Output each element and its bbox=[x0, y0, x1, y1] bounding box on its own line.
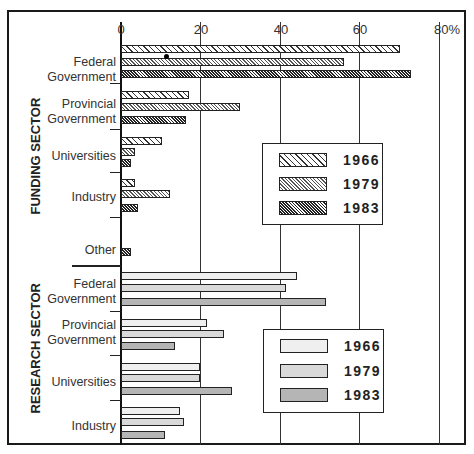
gridline-20 bbox=[200, 22, 201, 445]
bar-funding-universities-1983 bbox=[121, 159, 131, 167]
legend-swatch-1983 bbox=[280, 388, 328, 402]
legend-item-1979: 1979 bbox=[279, 176, 380, 192]
bar-funding-provincial-1966 bbox=[121, 91, 189, 99]
label-funding-provincial: Provincial Government bbox=[47, 97, 116, 127]
label-funding-industry: Industry bbox=[72, 190, 116, 205]
legend-swatch-1966 bbox=[279, 153, 327, 167]
tick-label-80: 80% bbox=[434, 22, 460, 37]
legend-swatch-1966 bbox=[280, 339, 328, 353]
legend-item-1966: 1966 bbox=[280, 338, 381, 354]
bar-funding-universities-1966 bbox=[121, 137, 162, 145]
bar-research-industry-1983 bbox=[121, 431, 165, 439]
bar-funding-industry-1966 bbox=[121, 179, 135, 187]
legend-swatch-1979 bbox=[280, 364, 328, 378]
legend-item-1983: 1983 bbox=[279, 200, 380, 216]
bar-funding-other-1983 bbox=[121, 248, 131, 256]
separator bbox=[110, 217, 121, 218]
gridline-80 bbox=[439, 22, 440, 445]
legend-item-1983: 1983 bbox=[280, 387, 381, 403]
separator bbox=[110, 172, 121, 173]
legend-item-1979: 1979 bbox=[280, 363, 381, 379]
label-funding-other: Other bbox=[85, 243, 116, 258]
separator bbox=[110, 129, 121, 130]
legend-swatch-1979 bbox=[279, 177, 327, 191]
bar-funding-federal-1966 bbox=[121, 45, 400, 53]
separator bbox=[110, 83, 121, 84]
bar-funding-provincial-1983 bbox=[121, 116, 186, 124]
legend-item-1966: 1966 bbox=[279, 152, 380, 168]
bar-research-universities-1983 bbox=[121, 387, 232, 395]
bar-research-provincial-1983 bbox=[121, 342, 175, 350]
label-research-federal: Federal Government bbox=[47, 277, 116, 307]
bar-research-universities-1979 bbox=[121, 374, 200, 382]
bar-research-industry-1979 bbox=[121, 418, 184, 426]
tick-label-40: 40 bbox=[274, 22, 288, 37]
label-research-universities: Universities bbox=[51, 375, 116, 390]
research-sector-label: RESEARCH SECTOR bbox=[28, 294, 43, 414]
label-research-industry: Industry bbox=[72, 419, 116, 434]
bar-research-federal-1979 bbox=[121, 284, 286, 292]
bar-funding-industry-1983 bbox=[121, 204, 138, 212]
label-research-provincial: Provincial Government bbox=[47, 318, 116, 348]
funding-sector-label: FUNDING SECTOR bbox=[28, 105, 43, 215]
bar-funding-industry-1979 bbox=[121, 190, 170, 198]
bar-funding-provincial-1979 bbox=[121, 103, 240, 111]
tick-label-60: 60 bbox=[353, 22, 367, 37]
bar-funding-federal-1983 bbox=[121, 70, 411, 78]
separator bbox=[110, 311, 121, 312]
label-funding-federal: Federal Government bbox=[47, 55, 116, 85]
label-funding-universities: Universities bbox=[51, 149, 116, 164]
separator bbox=[110, 400, 121, 401]
bar-research-provincial-1979 bbox=[121, 330, 224, 338]
bar-research-provincial-1966 bbox=[121, 319, 207, 327]
legend-swatch-1983 bbox=[279, 201, 327, 215]
bar-research-federal-1966 bbox=[121, 272, 297, 280]
bar-funding-universities-1979 bbox=[121, 148, 135, 156]
ink-dot bbox=[164, 54, 169, 59]
tick-label-0: 0 bbox=[117, 22, 124, 37]
tick-label-20: 20 bbox=[194, 22, 208, 37]
bar-research-industry-1966 bbox=[121, 407, 180, 415]
legend-funding: 1966 1979 1983 bbox=[262, 143, 383, 225]
legend-research: 1966 1979 1983 bbox=[263, 329, 384, 413]
sector-divider bbox=[72, 265, 121, 267]
bar-research-federal-1983 bbox=[121, 298, 326, 306]
bar-funding-federal-1979 bbox=[121, 58, 344, 66]
bar-research-universities-1966 bbox=[121, 363, 200, 371]
separator bbox=[110, 355, 121, 356]
